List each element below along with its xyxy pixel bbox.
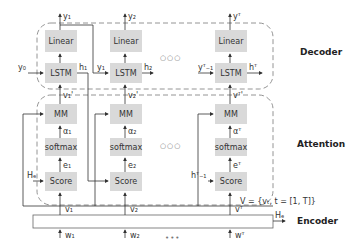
svg-text:α₂: α₂	[128, 127, 136, 136]
svg-text:MM: MM	[54, 110, 68, 119]
svg-text:Score: Score	[115, 177, 137, 186]
input-y0: y₀	[18, 63, 26, 72]
svg-text:h₂: h₂	[144, 63, 152, 72]
decoder-title: Decoder	[300, 47, 343, 57]
svg-text:yᵀ₋₁: yᵀ₋₁	[198, 63, 213, 72]
svg-text:w₁: w₁	[65, 231, 75, 240]
svg-text:softmax: softmax	[110, 143, 143, 152]
svg-text:e₁: e₁	[63, 161, 71, 170]
svg-text:v₂': v₂'	[128, 91, 138, 100]
svg-text:hᵀ₋₁: hᵀ₋₁	[191, 171, 207, 180]
svg-text:LSTM: LSTM	[50, 69, 71, 78]
svg-text:αᵀ: αᵀ	[233, 127, 242, 136]
output-y1: y₁	[63, 12, 71, 21]
attention-ellipsis: ○○○	[160, 142, 181, 150]
svg-text:y₁: y₁	[97, 63, 105, 72]
svg-text:LSTM: LSTM	[220, 69, 241, 78]
encoder-title: Encoder	[297, 216, 339, 226]
svg-text:MM: MM	[224, 110, 238, 119]
svg-text:LSTM: LSTM	[115, 69, 136, 78]
svg-text:Linear: Linear	[219, 37, 245, 46]
v-feed-mm1	[23, 114, 43, 206]
set-definition: V = {vₜ, t = [1, T]}	[240, 197, 316, 206]
svg-text:Score: Score	[220, 177, 242, 186]
svg-text:v₁': v₁'	[63, 91, 73, 100]
encoder-bar	[33, 215, 273, 228]
svg-text:y₂: y₂	[128, 12, 136, 21]
svg-text:vᵀ: vᵀ	[235, 205, 244, 214]
svg-text:wᵀ: wᵀ	[235, 231, 246, 240]
svg-text:Linear: Linear	[114, 37, 140, 46]
svg-text:eᵀ: eᵀ	[233, 161, 242, 170]
encoder-output-label: Hₑ	[275, 211, 284, 220]
seq2seq-attention-diagram: Hₑ Decoder Attention Encoder V = {vₜ, t …	[0, 0, 353, 250]
attention-title: Attention	[297, 139, 345, 149]
svg-text:Linear: Linear	[49, 37, 75, 46]
svg-text:hᵀ: hᵀ	[249, 63, 258, 72]
svg-text:e₂: e₂	[128, 161, 136, 170]
hidden-h1: h₁	[79, 63, 87, 72]
svg-text:Hₑ: Hₑ	[27, 171, 36, 180]
v-feed-mmT	[198, 114, 213, 206]
encoder-ellipsis: •••	[165, 234, 180, 242]
svg-text:α₁: α₁	[63, 127, 71, 136]
svg-text:w₂: w₂	[130, 231, 140, 240]
svg-text:yᵀ: yᵀ	[233, 12, 242, 21]
svg-text:MM: MM	[119, 110, 133, 119]
svg-text:Score: Score	[50, 177, 72, 186]
v-feed-mm2	[95, 114, 108, 206]
svg-text:vᵀ': vᵀ'	[233, 91, 243, 100]
svg-text:softmax: softmax	[215, 143, 248, 152]
decoder-ellipsis: ○○○	[160, 54, 181, 62]
svg-text:softmax: softmax	[45, 143, 78, 152]
svg-text:v₂: v₂	[130, 205, 138, 214]
